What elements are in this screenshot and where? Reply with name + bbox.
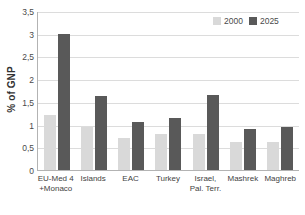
category-label: Maghreb — [262, 174, 299, 193]
category-label: Israel,Pal. Terr. — [187, 174, 224, 193]
category-label: EU-Med 4+Monaco — [37, 174, 74, 193]
bar-group — [150, 12, 187, 170]
legend-label: 2025 — [260, 16, 279, 26]
gridline: 0 — [38, 171, 299, 172]
category-label: Turkey — [149, 174, 186, 193]
bar-2000[interactable] — [118, 138, 130, 170]
y-axis-title: % of GNP — [6, 50, 17, 130]
bar-2000[interactable] — [81, 127, 93, 170]
bar-group — [262, 12, 299, 170]
legend-label: 2000 — [224, 16, 243, 26]
category-label: EAC — [112, 174, 149, 193]
bar-group — [75, 12, 112, 170]
bar-2025[interactable] — [207, 95, 219, 170]
legend-entry-2000[interactable]: 2000 — [213, 16, 243, 26]
bar-group — [38, 12, 75, 170]
y-axis-tick-label: 3,5 — [22, 7, 34, 17]
bar-chart: % of GNP 3,532,521,510,50 EU-Med 4+Monac… — [0, 0, 305, 215]
plot-area: 3,532,521,510,50 — [37, 12, 299, 171]
bar-2025[interactable] — [281, 127, 293, 170]
bar-2000[interactable] — [267, 142, 279, 170]
bar-group — [113, 12, 150, 170]
y-axis-tick-label: 0,5 — [22, 143, 34, 153]
bar-2000[interactable] — [193, 134, 205, 170]
legend-entry-2025[interactable]: 2025 — [249, 16, 279, 26]
bar-2000[interactable] — [44, 115, 56, 170]
category-label: Islands — [74, 174, 111, 193]
legend-swatch-icon — [249, 17, 257, 25]
bar-2025[interactable] — [58, 34, 70, 170]
y-axis-tick-label: 2,5 — [22, 52, 34, 62]
bar-group — [187, 12, 224, 170]
chart-legend: 20002025 — [213, 16, 279, 26]
bar-2025[interactable] — [95, 96, 107, 170]
y-axis-tick-label: 0 — [29, 166, 34, 176]
x-axis-category-labels: EU-Med 4+MonacoIslandsEACTurkeyIsrael,Pa… — [37, 174, 299, 193]
category-label: Mashrek — [224, 174, 261, 193]
bar-2025[interactable] — [132, 122, 144, 170]
bar-2025[interactable] — [244, 129, 256, 170]
y-axis-tick-label: 2 — [29, 75, 34, 85]
bar-2000[interactable] — [155, 134, 167, 170]
bar-groups — [38, 12, 299, 170]
legend-swatch-icon — [213, 17, 221, 25]
bar-2000[interactable] — [230, 142, 242, 170]
y-axis-tick-label: 1 — [29, 121, 34, 131]
y-axis-tick-label: 1,5 — [22, 98, 34, 108]
bar-2025[interactable] — [169, 118, 181, 170]
bar-group — [224, 12, 261, 170]
y-axis-tick-label: 3 — [29, 30, 34, 40]
